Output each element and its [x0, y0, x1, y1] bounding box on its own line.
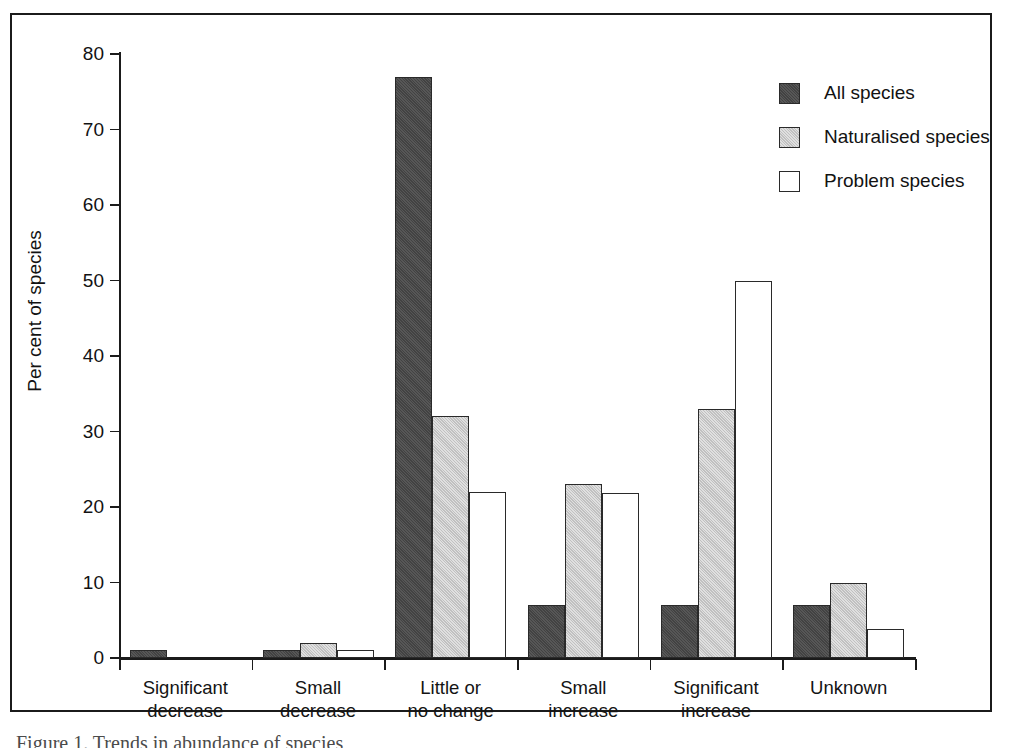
- legend-label: All species: [824, 82, 915, 104]
- y-axis-tick: [110, 431, 119, 433]
- bar-naturalised-2: [432, 416, 469, 658]
- x-axis-tick: [384, 659, 386, 670]
- category-label-line: Significant: [650, 676, 783, 699]
- x-axis-category-label: Little orno change: [384, 676, 517, 722]
- y-axis-tick-label: 60: [4, 195, 104, 214]
- category-label-line: Significant: [119, 676, 252, 699]
- legend-swatch-problem-icon: [779, 171, 800, 192]
- category-label-line: Little or: [384, 676, 517, 699]
- legend-swatch-all-icon: [779, 83, 800, 104]
- x-axis-category-label: Smalldecrease: [252, 676, 385, 722]
- x-axis-tick: [119, 659, 121, 670]
- category-label-line: Small: [252, 676, 385, 699]
- y-axis-tick-labels: 01020304050607080: [0, 0, 104, 748]
- y-axis-tick: [110, 506, 119, 508]
- x-axis-tick: [915, 659, 917, 670]
- y-axis-tick-label: 40: [4, 346, 104, 365]
- figure-root: 01020304050607080 Per cent of species Si…: [0, 0, 1018, 748]
- bar-all-3: [528, 605, 565, 658]
- bar-all-2: [395, 77, 432, 658]
- x-axis-tick: [517, 659, 519, 670]
- bar-naturalised-5: [830, 583, 867, 659]
- y-axis-tick: [110, 582, 119, 584]
- category-label-line: increase: [517, 699, 650, 722]
- y-axis-tick: [110, 657, 119, 659]
- y-axis-tick-label: 30: [4, 422, 104, 441]
- legend-label: Naturalised species: [824, 126, 990, 148]
- y-axis-tick: [110, 355, 119, 357]
- category-label-line: decrease: [119, 699, 252, 722]
- legend-item-all[interactable]: All species: [779, 71, 994, 115]
- legend-swatch-naturalised-icon: [779, 127, 800, 148]
- category-label-line: increase: [650, 699, 783, 722]
- y-axis-tick-label: 50: [4, 271, 104, 290]
- bar-all-0: [130, 650, 167, 658]
- category-label-line: decrease: [252, 699, 385, 722]
- bar-problem-1: [337, 650, 374, 658]
- legend-item-problem[interactable]: Problem species: [779, 159, 994, 203]
- y-axis-tick: [110, 53, 119, 55]
- bar-problem-5: [867, 629, 904, 658]
- legend-label: Problem species: [824, 170, 964, 192]
- x-axis-category-label: Significantincrease: [650, 676, 783, 722]
- legend-item-naturalised[interactable]: Naturalised species: [779, 115, 994, 159]
- caption-sliver: Figure 1. Trends in abundance of species: [16, 733, 716, 748]
- category-label-line: no change: [384, 699, 517, 722]
- category-label-line: Unknown: [782, 676, 915, 699]
- x-axis-category-label: Significantdecrease: [119, 676, 252, 722]
- bar-all-4: [661, 605, 698, 658]
- bar-naturalised-3: [565, 484, 602, 658]
- x-axis-tick: [782, 659, 784, 670]
- bar-problem-2: [469, 492, 506, 658]
- y-axis-tick-label: 80: [4, 44, 104, 63]
- y-axis-tick: [110, 129, 119, 131]
- x-axis-category-label: Smallincrease: [517, 676, 650, 722]
- bar-problem-4: [735, 281, 772, 659]
- y-axis-tick: [110, 204, 119, 206]
- y-axis-tick-label: 0: [4, 648, 104, 667]
- chart-legend: All speciesNaturalised speciesProblem sp…: [779, 71, 994, 203]
- bar-all-5: [793, 605, 830, 658]
- category-label-line: Small: [517, 676, 650, 699]
- bar-all-1: [263, 650, 300, 658]
- y-axis-title: Per cent of species: [24, 61, 46, 561]
- y-axis-tick-label: 20: [4, 497, 104, 516]
- bar-naturalised-1: [300, 643, 337, 658]
- bar-naturalised-4: [698, 409, 735, 658]
- y-axis-tick-label: 70: [4, 120, 104, 139]
- x-axis-tick: [252, 659, 254, 670]
- y-axis-tick: [110, 280, 119, 282]
- y-axis-tick-label: 10: [4, 573, 104, 592]
- x-axis-category-label: Unknown: [782, 676, 915, 699]
- x-axis-tick: [650, 659, 652, 670]
- bar-problem-3: [602, 493, 639, 658]
